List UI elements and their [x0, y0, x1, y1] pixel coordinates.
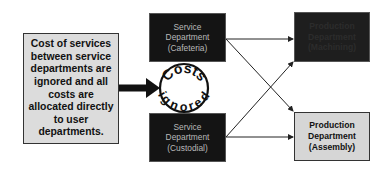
production-dept-assembly-label: Production Department (Assembly) — [308, 120, 356, 152]
note-text: Cost of services between service departm… — [29, 38, 114, 139]
production-dept-machining: Production Department (Machining) — [294, 12, 370, 62]
costs-ignored-stamp: Costs ignored — [155, 60, 212, 114]
service-dept-cafeteria-label: Service Department (Cafeteria) — [166, 22, 210, 54]
service-dept-custodial: Service Department (Custodial) — [149, 113, 226, 162]
service-dept-cafeteria: Service Department (Cafeteria) — [149, 13, 226, 62]
direct-method-note: Cost of services between service departm… — [23, 33, 119, 144]
production-dept-assembly: Production Department (Assembly) — [294, 112, 370, 161]
production-dept-machining-label: Production Department (Machining) — [308, 21, 356, 53]
thick-arrow-icon — [119, 78, 160, 98]
service-dept-custodial-label: Service Department (Custodial) — [166, 122, 210, 154]
